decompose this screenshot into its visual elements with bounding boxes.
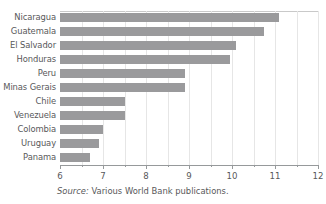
x-tick-major (275, 165, 276, 169)
category-label: Guatemala (0, 25, 56, 39)
x-tick-major (189, 165, 190, 169)
x-tick-label: 10 (227, 171, 238, 181)
bar-row (60, 151, 318, 165)
bar-row (60, 67, 318, 81)
bar-row (60, 137, 318, 151)
x-tick-minor (297, 165, 298, 167)
bar-row (60, 95, 318, 109)
bar (60, 125, 103, 134)
category-label: Panama (0, 151, 56, 165)
bar (60, 139, 99, 148)
bar (60, 55, 230, 64)
bar (60, 111, 125, 120)
bar (60, 153, 90, 162)
bar-chart: Nicaragua Guatemala El Salvador Honduras… (0, 0, 326, 204)
bar-row (60, 39, 318, 53)
x-tick-label: 12 (313, 171, 324, 181)
x-tick-minor (254, 165, 255, 167)
x-tick-minor (82, 165, 83, 167)
x-tick-minor (211, 165, 212, 167)
bar-row (60, 11, 318, 25)
bar (60, 69, 185, 78)
x-tick-major (60, 165, 61, 169)
category-label: Colombia (0, 123, 56, 137)
source-note: Source: Various World Bank publications. (57, 186, 229, 196)
category-label: Venezuela (0, 109, 56, 123)
category-label: Chile (0, 95, 56, 109)
bar (60, 27, 264, 36)
x-tick-major (103, 165, 104, 169)
x-tick-minor (125, 165, 126, 167)
source-text: Various World Bank publications. (91, 186, 228, 196)
source-prefix: Source: (57, 186, 89, 196)
bar (60, 41, 236, 50)
x-tick-minor (168, 165, 169, 167)
x-tick-major (318, 165, 319, 169)
x-tick-label: 8 (143, 171, 148, 181)
bar (60, 97, 125, 106)
bar (60, 13, 279, 22)
category-label: El Salvador (0, 39, 56, 53)
bar-row (60, 25, 318, 39)
plot-area (60, 11, 318, 165)
category-label: Peru (0, 67, 56, 81)
category-label: Minas Gerais (0, 81, 56, 95)
bar-rows (60, 11, 318, 165)
x-tick-label: 6 (57, 171, 62, 181)
bar-row (60, 123, 318, 137)
x-tick-label: 9 (186, 171, 191, 181)
x-tick-label: 11 (270, 171, 281, 181)
category-axis-labels: Nicaragua Guatemala El Salvador Honduras… (0, 11, 56, 165)
x-tick-label: 7 (100, 171, 105, 181)
bar-row (60, 53, 318, 67)
bar (60, 83, 185, 92)
x-tick-major (146, 165, 147, 169)
gridline (318, 11, 319, 165)
category-label: Honduras (0, 53, 56, 67)
category-label: Uruguay (0, 137, 56, 151)
category-label: Nicaragua (0, 11, 56, 25)
bar-row (60, 109, 318, 123)
x-tick-major (232, 165, 233, 169)
bar-row (60, 81, 318, 95)
